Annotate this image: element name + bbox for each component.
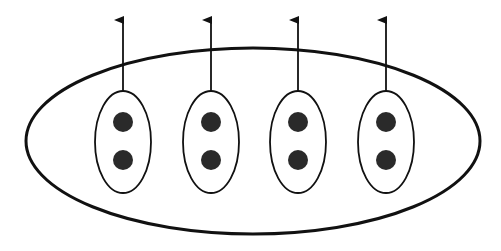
- dot: [113, 112, 133, 132]
- inner-ellipse: [95, 91, 151, 193]
- inner-ellipse: [270, 91, 326, 193]
- pair-group-1: [95, 20, 151, 193]
- dot: [201, 150, 221, 170]
- dot: [113, 150, 133, 170]
- dot: [201, 112, 221, 132]
- pair-group-2: [183, 20, 239, 193]
- dot: [288, 112, 308, 132]
- outer-ellipse: [26, 48, 480, 234]
- dot: [288, 150, 308, 170]
- pair-group-4: [358, 20, 414, 193]
- diagram-canvas: [0, 0, 501, 251]
- dot: [376, 150, 396, 170]
- dot: [376, 112, 396, 132]
- inner-ellipse: [358, 91, 414, 193]
- inner-ellipse: [183, 91, 239, 193]
- pair-group-3: [270, 20, 326, 193]
